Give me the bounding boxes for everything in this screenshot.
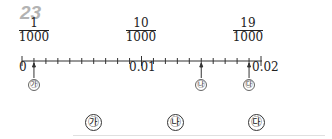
arrow-label-da: ㉰	[243, 79, 255, 91]
answer-label-na: ㉯	[167, 114, 184, 131]
answer-label-da: ㉰	[248, 114, 265, 131]
answer-label-ga: ㉮	[85, 114, 102, 131]
tick-label-0-02: 0.02	[252, 60, 279, 74]
arrow-label-na: ㉯	[195, 79, 207, 91]
arrow-label-ga: ㉮	[28, 79, 40, 91]
number-line	[0, 0, 332, 139]
tick-label-0: 0	[19, 60, 27, 74]
answer-underline	[73, 135, 325, 136]
tick-label-0-01: 0.01	[129, 60, 156, 74]
